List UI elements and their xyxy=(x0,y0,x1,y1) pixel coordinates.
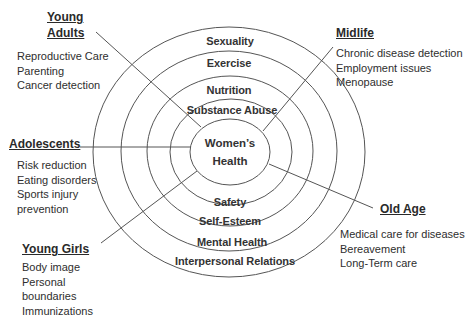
stage-title-young-adults-line2: Adults xyxy=(47,25,109,41)
list-item: Personal xyxy=(22,275,93,290)
stage-items-young-girls: Body image Personal boundaries Immunizat… xyxy=(22,260,93,318)
stage-old-age: Old Age Medical care for diseases Bereav… xyxy=(340,201,465,271)
list-item: Employment issues xyxy=(336,61,463,76)
center-label-line2: Health xyxy=(205,152,255,170)
list-item: Body image xyxy=(22,260,93,275)
center-label-line1: Women’s xyxy=(205,134,255,152)
ring-label-safety: Safety xyxy=(214,196,246,208)
stage-midlife: Midlife Chronic disease detection Employ… xyxy=(336,25,463,90)
list-item: prevention xyxy=(17,202,97,217)
list-item: Medical care for diseases xyxy=(340,227,465,242)
spoke-young-girls xyxy=(101,171,197,243)
list-item: Eating disorders xyxy=(17,173,97,188)
list-item: Bereavement xyxy=(340,242,465,257)
list-item: Immunizations xyxy=(22,304,93,319)
stage-items-adolescents: Risk reduction Eating disorders Sports i… xyxy=(9,158,97,216)
ring-label-mental-health: Mental Health xyxy=(197,236,267,248)
stage-items-young-adults: Reproductive Care Parenting Cancer detec… xyxy=(17,49,109,93)
stage-young-girls: Young Girls Body image Personal boundari… xyxy=(22,241,93,318)
stage-title-young-adults-line1: Young xyxy=(47,9,109,25)
ring-label-interpersonal-relations: Interpersonal Relations xyxy=(175,255,295,267)
stage-young-adults: Young Adults Reproductive Care Parenting… xyxy=(17,9,109,93)
stage-title-young-girls: Young Girls xyxy=(22,241,93,257)
stage-title-young-adults: Young Adults xyxy=(17,9,109,41)
ring-label-sexuality: Sexuality xyxy=(206,35,253,47)
ring-label-nutrition: Nutrition xyxy=(207,84,252,96)
stage-items-old-age: Medical care for diseases Bereavement Lo… xyxy=(340,227,465,271)
ring-label-substance-abuse: Substance Abuse xyxy=(187,104,277,116)
stage-adolescents: Adolescents Risk reduction Eating disord… xyxy=(9,136,97,216)
list-item: Risk reduction xyxy=(17,158,97,173)
list-item: Sports injury xyxy=(17,187,97,202)
stage-title-adolescents: Adolescents xyxy=(9,136,97,152)
center-label: Women’s Health xyxy=(205,134,255,170)
list-item: Reproductive Care xyxy=(17,49,109,64)
list-item: Cancer detection xyxy=(17,78,109,93)
stage-title-old-age: Old Age xyxy=(340,201,465,217)
spoke-young-adults xyxy=(96,32,201,127)
list-item: Chronic disease detection xyxy=(336,46,463,61)
list-item: Menopause xyxy=(336,75,463,90)
stage-items-midlife: Chronic disease detection Employment iss… xyxy=(336,46,463,90)
list-item: Parenting xyxy=(17,64,109,79)
ring-label-self-esteem: Self-Esteem xyxy=(199,215,261,227)
stage-title-midlife: Midlife xyxy=(336,25,463,41)
list-item: Long-Term care xyxy=(340,256,465,271)
list-item: boundaries xyxy=(22,289,93,304)
ring-label-exercise: Exercise xyxy=(207,57,251,69)
